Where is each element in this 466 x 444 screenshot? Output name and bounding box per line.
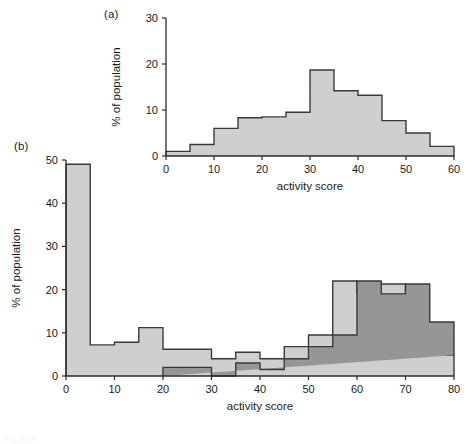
x-tick-label: 30 — [205, 383, 217, 395]
figure-caption: Fig. 2.10 — [4, 434, 35, 443]
y-tick-label: 20 — [146, 58, 158, 70]
y-tick-label: 10 — [146, 104, 158, 116]
y-tick-label: 20 — [46, 284, 58, 296]
y-axis-title: % of population — [110, 47, 122, 126]
figure-two-histograms: (a) 01020304050600102030activity score% … — [0, 0, 466, 444]
y-tick-label: 0 — [52, 370, 58, 382]
panel-b: (b) 0102030405060708001020304050activity… — [4, 136, 462, 426]
y-tick-label: 30 — [46, 240, 58, 252]
x-axis-title: activity score — [227, 400, 293, 412]
y-tick-label: 30 — [146, 12, 158, 24]
y-tick-label: 50 — [46, 154, 58, 166]
x-tick-label: 40 — [254, 383, 266, 395]
x-tick-label: 10 — [108, 383, 120, 395]
y-axis-title: % of population — [10, 228, 22, 307]
x-tick-label: 60 — [351, 383, 363, 395]
x-tick-label: 50 — [302, 383, 314, 395]
x-tick-label: 70 — [399, 383, 411, 395]
panel-b-label: (b) — [14, 140, 28, 152]
panel-b-plot: 0102030405060708001020304050activity sco… — [4, 136, 462, 426]
y-tick-label: 10 — [46, 327, 58, 339]
x-tick-label: 0 — [63, 383, 69, 395]
y-tick-label: 40 — [46, 197, 58, 209]
x-tick-label: 20 — [157, 383, 169, 395]
x-tick-label: 80 — [448, 383, 460, 395]
panel-a-label: (a) — [104, 8, 118, 20]
